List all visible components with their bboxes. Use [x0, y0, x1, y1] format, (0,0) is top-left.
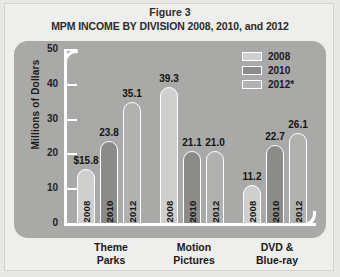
- category-label-line2: Blue-ray: [232, 254, 322, 267]
- bar-2008-group-1[interactable]: 2008: [160, 87, 178, 224]
- bar-2010-group-1[interactable]: 2010: [183, 151, 201, 224]
- bar-year-label: 2010: [104, 201, 115, 223]
- plot-panel: Millions of Dollars 50403020100 2008$15.…: [14, 41, 326, 238]
- category-label-line1: DVD &: [232, 241, 322, 254]
- bar-value-label: 26.1: [276, 119, 320, 130]
- y-axis-tick: [64, 84, 77, 86]
- legend-swatch-2008-icon: [242, 52, 262, 61]
- category-label-2: DVD &Blue-ray: [232, 241, 322, 266]
- chart-screenshot: Figure 3 MPM INCOME BY DIVISION 2008, 20…: [0, 0, 340, 277]
- y-axis-tick-label: 50: [28, 43, 58, 54]
- legend-swatch-2010-icon: [242, 66, 262, 75]
- y-axis-title: Millions of Dollars: [30, 46, 41, 164]
- legend-item[interactable]: 2012*: [242, 78, 316, 91]
- category-label-line1: Motion: [149, 241, 239, 254]
- chart-title: MPM INCOME BY DIVISION 2008, 2010, and 2…: [10, 19, 330, 33]
- bar-2010-group-0[interactable]: 2010: [100, 141, 118, 224]
- legend-item[interactable]: 2010: [242, 64, 316, 77]
- bar-year-label: 2010: [187, 201, 198, 223]
- y-axis-tick-label: 0: [28, 217, 58, 228]
- legend-swatch-2012-icon: [242, 80, 262, 89]
- legend-label-2010: 2010: [268, 65, 290, 76]
- category-label-0: ThemeParks: [66, 241, 156, 266]
- y-axis-line: [64, 50, 67, 226]
- y-axis-tick: [64, 49, 77, 51]
- figure-number: Figure 3: [10, 6, 330, 19]
- bar-year-label: 2008: [81, 201, 92, 223]
- bar-year-label: 2012: [127, 201, 138, 223]
- bar-value-label: 21.0: [193, 137, 237, 148]
- bar-2010-group-2[interactable]: 2010: [266, 145, 284, 224]
- bar-year-label: 2008: [247, 201, 258, 223]
- bar-2008-group-2[interactable]: 2008: [243, 185, 261, 224]
- category-label-1: MotionPictures: [149, 241, 239, 266]
- legend: 2008 2010 2012*: [242, 50, 316, 92]
- bar-2012-group-0[interactable]: 2012: [123, 102, 141, 224]
- category-label-line2: Pictures: [149, 254, 239, 267]
- bar-year-label: 2012: [293, 201, 304, 223]
- bar-value-label: 39.3: [147, 73, 191, 84]
- category-label-line2: Parks: [66, 254, 156, 267]
- bar-year-label: 2010: [270, 201, 281, 223]
- bar-2008-group-0[interactable]: 2008: [77, 169, 95, 224]
- bar-2012-group-1[interactable]: 2012: [206, 151, 224, 224]
- legend-item[interactable]: 2008: [242, 50, 316, 63]
- bar-year-label: 2008: [164, 201, 175, 223]
- bar-value-label: 35.1: [110, 88, 154, 99]
- y-axis-tick-label: 20: [28, 147, 58, 158]
- title-block: Figure 3 MPM INCOME BY DIVISION 2008, 20…: [10, 6, 330, 33]
- legend-label-2008: 2008: [268, 51, 290, 62]
- y-axis-tick-label: 10: [28, 182, 58, 193]
- y-axis-tick: [64, 188, 77, 190]
- y-axis-tick-label: 40: [28, 78, 58, 89]
- category-label-line1: Theme: [66, 241, 156, 254]
- y-axis-tick-label: 30: [28, 113, 58, 124]
- bar-year-label: 2012: [210, 201, 221, 223]
- y-axis-tick: [64, 119, 77, 121]
- legend-label-2012: 2012*: [268, 79, 294, 90]
- bar-2012-group-2[interactable]: 2012: [289, 133, 307, 224]
